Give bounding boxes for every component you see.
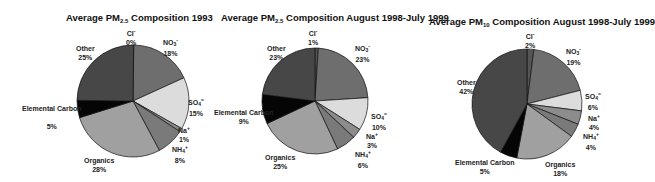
label-no3: NO3-23%	[355, 42, 370, 64]
label-no3: NO3-18%	[163, 36, 178, 58]
chart-panel-pm10-1998-1999: Average PM10 Composition August 1998-Jul…	[427, 0, 643, 182]
label-so4: SO4=6%	[585, 90, 601, 112]
label-na: Na+4%	[588, 112, 600, 132]
label-na: Na+3%	[366, 130, 378, 150]
label-nh4: NH4+4%	[583, 130, 599, 152]
label-elemental-carbon: Elemental Carbon5%	[22, 104, 82, 131]
label-other: Other42%	[457, 78, 476, 96]
label-cl: Cl-2%	[525, 30, 535, 50]
label-elemental-carbon: Elemental Carbon9%	[214, 108, 274, 126]
label-other: Other23%	[267, 44, 286, 62]
pie-chart	[215, 0, 427, 182]
label-so4: SO4=10%	[371, 110, 387, 132]
label-organics: Organics28%	[84, 156, 114, 174]
label-other: Other25%	[76, 44, 95, 62]
label-na: Na+1%	[178, 124, 190, 144]
chart-panel-pm25-1998-1999: Average PM2.5 Composition August 1998-Ju…	[215, 0, 427, 182]
label-so4: SO4=15%	[188, 96, 204, 118]
label-cl: Cl-1%	[308, 27, 318, 47]
chart-panel-pm25-1993: Average PM2.5 Composition 1993 Cl-0% NO3…	[0, 0, 215, 182]
label-nh4: NH4+8%	[172, 143, 188, 165]
label-organics: Organics18%	[545, 160, 575, 178]
label-nh4: NH4+6%	[355, 148, 371, 170]
label-no3: NO3-19%	[566, 45, 581, 67]
label-organics: Organics25%	[265, 153, 295, 171]
label-elemental-carbon: Elemental Carbon5%	[455, 158, 515, 176]
label-cl: Cl-0%	[126, 27, 136, 47]
